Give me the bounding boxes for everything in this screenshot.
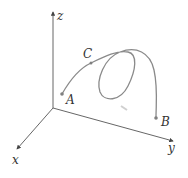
space-curve-diagram: z x y A C B: [0, 0, 188, 178]
point-b-label: B: [160, 115, 170, 129]
space-curve: [62, 50, 157, 118]
point-b: [154, 116, 158, 120]
point-c-label: C: [83, 47, 92, 61]
point-c: [90, 62, 93, 65]
x-axis-label: x: [12, 153, 19, 167]
y-axis: [53, 108, 173, 141]
smudge-mark: [121, 106, 127, 110]
point-a: [60, 92, 64, 96]
z-axis-label: z: [56, 9, 64, 23]
point-a-label: A: [65, 93, 75, 107]
x-axis: [17, 108, 53, 149]
y-axis-label: y: [167, 141, 175, 155]
